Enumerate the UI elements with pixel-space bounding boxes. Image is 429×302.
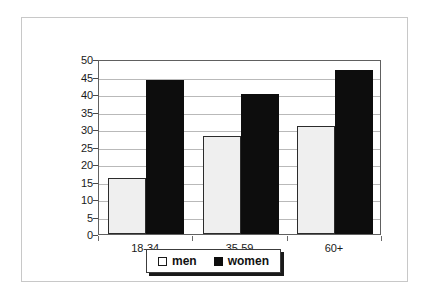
legend-label-men: men: [172, 255, 197, 267]
y-axis-tick-label: 15: [71, 177, 93, 188]
legend-swatch-women-icon: [214, 257, 223, 266]
legend-entry-men[interactable]: men: [158, 255, 197, 267]
x-axis-tick-mark: [98, 236, 99, 241]
y-axis-tick-label: 45: [71, 72, 93, 83]
x-axis-tick-mark: [381, 236, 382, 241]
x-axis-tick-mark: [287, 236, 288, 241]
bar-women-60+: [335, 70, 373, 235]
y-axis-tick-mark: [93, 60, 98, 61]
x-axis-label-60+: 60+: [325, 242, 343, 254]
y-axis-tick-mark: [93, 113, 98, 114]
legend-label-women: women: [228, 255, 269, 267]
legend-entry-women[interactable]: women: [214, 255, 269, 267]
y-axis-tick-mark: [93, 165, 98, 166]
y-axis-tick-mark: [93, 95, 98, 96]
y-axis-tick-mark: [93, 130, 98, 131]
y-axis-tick-mark: [93, 200, 98, 201]
y-axis-tick-label: 5: [71, 212, 93, 223]
y-axis-tick-label: 35: [71, 107, 93, 118]
y-axis-tick-label: 30: [71, 125, 93, 136]
bar-men-18-34: [108, 178, 146, 234]
plot-area: [98, 60, 381, 235]
y-axis-tick-mark: [93, 78, 98, 79]
y-axis-tick-mark: [93, 183, 98, 184]
y-axis-tick-label: 10: [71, 195, 93, 206]
bar-women-18-34: [146, 80, 184, 234]
y-axis-tick-label: 20: [71, 160, 93, 171]
legend-swatch-men-icon: [158, 257, 167, 266]
y-axis-tick-label: 25: [71, 142, 93, 153]
bar-women-35-59: [241, 94, 279, 234]
x-axis-tick-mark: [192, 236, 193, 241]
bar-men-60+: [297, 126, 335, 235]
y-axis-tick-labels: 50454035302520151050: [68, 60, 93, 235]
bar-men-35-59: [203, 136, 241, 234]
y-axis-tick-label: 0: [71, 230, 93, 241]
y-axis-tick-mark: [93, 148, 98, 149]
chart-outer-frame: 50454035302520151050 18-3435-5960+: [21, 17, 408, 282]
y-axis-tick-label: 50: [71, 55, 93, 66]
y-axis-tick-label: 40: [71, 90, 93, 101]
y-axis-tick-mark: [93, 218, 98, 219]
chart-legend[interactable]: menwomen: [146, 249, 281, 273]
